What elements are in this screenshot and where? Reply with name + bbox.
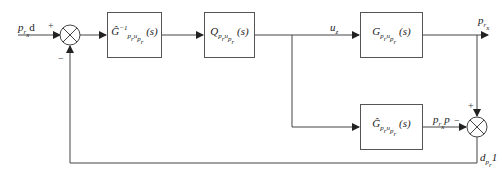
reference-signal-label: prxd (18, 22, 35, 39)
output-signal-label: prx (478, 15, 489, 32)
inverse-model-label: Ĝ−1prupr (s) (111, 24, 158, 46)
disturbance-label: dpr1 (480, 152, 497, 169)
plant-output-plus-sign: + (468, 101, 474, 111)
reference-plus-sign: + (48, 21, 54, 31)
feedback-minus-sign: − (58, 54, 64, 64)
filter-label: Qprupr (s) (210, 25, 248, 46)
inverse-model-block: Ĝ−1prupr (s) (107, 12, 162, 58)
model-block: Ĝprupr (s) (360, 104, 423, 150)
model-label: Ĝprupr (s) (372, 117, 410, 138)
filter-block: Qprupr (s) (204, 12, 255, 58)
control-signal-label: uz (330, 22, 338, 36)
model-output-label: prxp (433, 114, 450, 131)
model-output-minus-sign: − (454, 116, 460, 126)
plant-block: Gprupr (s) (360, 12, 423, 58)
block-diagram: Ĝ−1prupr (s) Qprupr (s) Gprupr (s) Ĝprup… (0, 0, 502, 174)
plant-label: Gprupr (s) (372, 25, 410, 46)
